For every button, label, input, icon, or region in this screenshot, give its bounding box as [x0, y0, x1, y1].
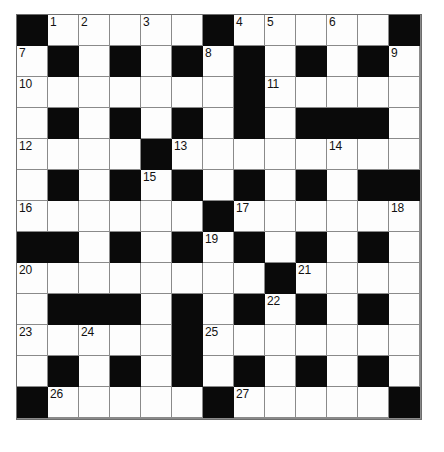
letter-cell[interactable]: 11 — [265, 77, 296, 108]
letter-cell[interactable] — [141, 201, 172, 232]
letter-cell[interactable] — [203, 170, 234, 201]
letter-cell[interactable] — [358, 139, 389, 170]
letter-cell[interactable]: 27 — [234, 387, 265, 418]
letter-cell[interactable]: 19 — [203, 232, 234, 263]
letter-cell[interactable] — [141, 325, 172, 356]
letter-cell[interactable] — [79, 46, 110, 77]
letter-cell[interactable] — [389, 232, 420, 263]
letter-cell[interactable]: 25 — [203, 325, 234, 356]
letter-cell[interactable] — [358, 387, 389, 418]
letter-cell[interactable]: 9 — [389, 46, 420, 77]
letter-cell[interactable] — [265, 356, 296, 387]
letter-cell[interactable] — [17, 294, 48, 325]
letter-cell[interactable] — [389, 294, 420, 325]
letter-cell[interactable] — [265, 170, 296, 201]
letter-cell[interactable] — [234, 139, 265, 170]
letter-cell[interactable] — [172, 15, 203, 46]
letter-cell[interactable] — [265, 46, 296, 77]
letter-cell[interactable] — [48, 263, 79, 294]
letter-cell[interactable] — [17, 356, 48, 387]
letter-cell[interactable] — [265, 108, 296, 139]
letter-cell[interactable]: 14 — [327, 139, 358, 170]
letter-cell[interactable] — [141, 294, 172, 325]
letter-cell[interactable] — [141, 232, 172, 263]
letter-cell[interactable]: 2 — [79, 15, 110, 46]
letter-cell[interactable]: 16 — [17, 201, 48, 232]
letter-cell[interactable] — [389, 108, 420, 139]
letter-cell[interactable] — [234, 325, 265, 356]
letter-cell[interactable] — [358, 201, 389, 232]
letter-cell[interactable] — [234, 263, 265, 294]
letter-cell[interactable] — [141, 108, 172, 139]
letter-cell[interactable]: 23 — [17, 325, 48, 356]
letter-cell[interactable] — [203, 294, 234, 325]
letter-cell[interactable] — [296, 387, 327, 418]
letter-cell[interactable] — [48, 77, 79, 108]
letter-cell[interactable] — [327, 201, 358, 232]
letter-cell[interactable]: 7 — [17, 46, 48, 77]
letter-cell[interactable]: 10 — [17, 77, 48, 108]
letter-cell[interactable] — [17, 170, 48, 201]
letter-cell[interactable] — [327, 263, 358, 294]
letter-cell[interactable] — [110, 201, 141, 232]
letter-cell[interactable] — [296, 77, 327, 108]
letter-cell[interactable] — [327, 46, 358, 77]
letter-cell[interactable] — [79, 232, 110, 263]
letter-cell[interactable] — [327, 294, 358, 325]
letter-cell[interactable] — [48, 201, 79, 232]
letter-cell[interactable] — [327, 170, 358, 201]
letter-cell[interactable] — [17, 108, 48, 139]
letter-cell[interactable]: 3 — [141, 15, 172, 46]
letter-cell[interactable]: 12 — [17, 139, 48, 170]
letter-cell[interactable] — [203, 263, 234, 294]
letter-cell[interactable]: 20 — [17, 263, 48, 294]
letter-cell[interactable]: 24 — [79, 325, 110, 356]
letter-cell[interactable]: 15 — [141, 170, 172, 201]
letter-cell[interactable] — [389, 139, 420, 170]
letter-cell[interactable] — [265, 201, 296, 232]
letter-cell[interactable] — [172, 387, 203, 418]
letter-cell[interactable] — [389, 325, 420, 356]
letter-cell[interactable]: 21 — [296, 263, 327, 294]
letter-cell[interactable] — [79, 263, 110, 294]
letter-cell[interactable]: 1 — [48, 15, 79, 46]
letter-cell[interactable]: 8 — [203, 46, 234, 77]
letter-cell[interactable] — [265, 232, 296, 263]
letter-cell[interactable] — [141, 356, 172, 387]
letter-cell[interactable] — [203, 77, 234, 108]
letter-cell[interactable]: 17 — [234, 201, 265, 232]
letter-cell[interactable] — [110, 77, 141, 108]
letter-cell[interactable] — [296, 325, 327, 356]
letter-cell[interactable] — [203, 108, 234, 139]
letter-cell[interactable] — [327, 232, 358, 263]
letter-cell[interactable] — [327, 387, 358, 418]
letter-cell[interactable] — [327, 325, 358, 356]
letter-cell[interactable] — [110, 263, 141, 294]
letter-cell[interactable] — [358, 325, 389, 356]
crossword-grid[interactable]: 1234567891011121314151617181920212223242… — [16, 14, 422, 420]
letter-cell[interactable] — [358, 15, 389, 46]
letter-cell[interactable] — [141, 387, 172, 418]
letter-cell[interactable] — [110, 325, 141, 356]
letter-cell[interactable]: 13 — [172, 139, 203, 170]
letter-cell[interactable] — [79, 201, 110, 232]
letter-cell[interactable] — [172, 77, 203, 108]
letter-cell[interactable] — [265, 139, 296, 170]
letter-cell[interactable] — [141, 77, 172, 108]
letter-cell[interactable] — [172, 201, 203, 232]
letter-cell[interactable] — [203, 139, 234, 170]
letter-cell[interactable] — [389, 356, 420, 387]
letter-cell[interactable] — [296, 201, 327, 232]
letter-cell[interactable]: 22 — [265, 294, 296, 325]
letter-cell[interactable] — [358, 263, 389, 294]
letter-cell[interactable] — [358, 77, 389, 108]
letter-cell[interactable]: 5 — [265, 15, 296, 46]
letter-cell[interactable] — [265, 325, 296, 356]
letter-cell[interactable] — [110, 15, 141, 46]
letter-cell[interactable]: 18 — [389, 201, 420, 232]
letter-cell[interactable] — [48, 325, 79, 356]
letter-cell[interactable] — [48, 139, 79, 170]
letter-cell[interactable] — [296, 15, 327, 46]
letter-cell[interactable] — [79, 356, 110, 387]
letter-cell[interactable] — [141, 263, 172, 294]
